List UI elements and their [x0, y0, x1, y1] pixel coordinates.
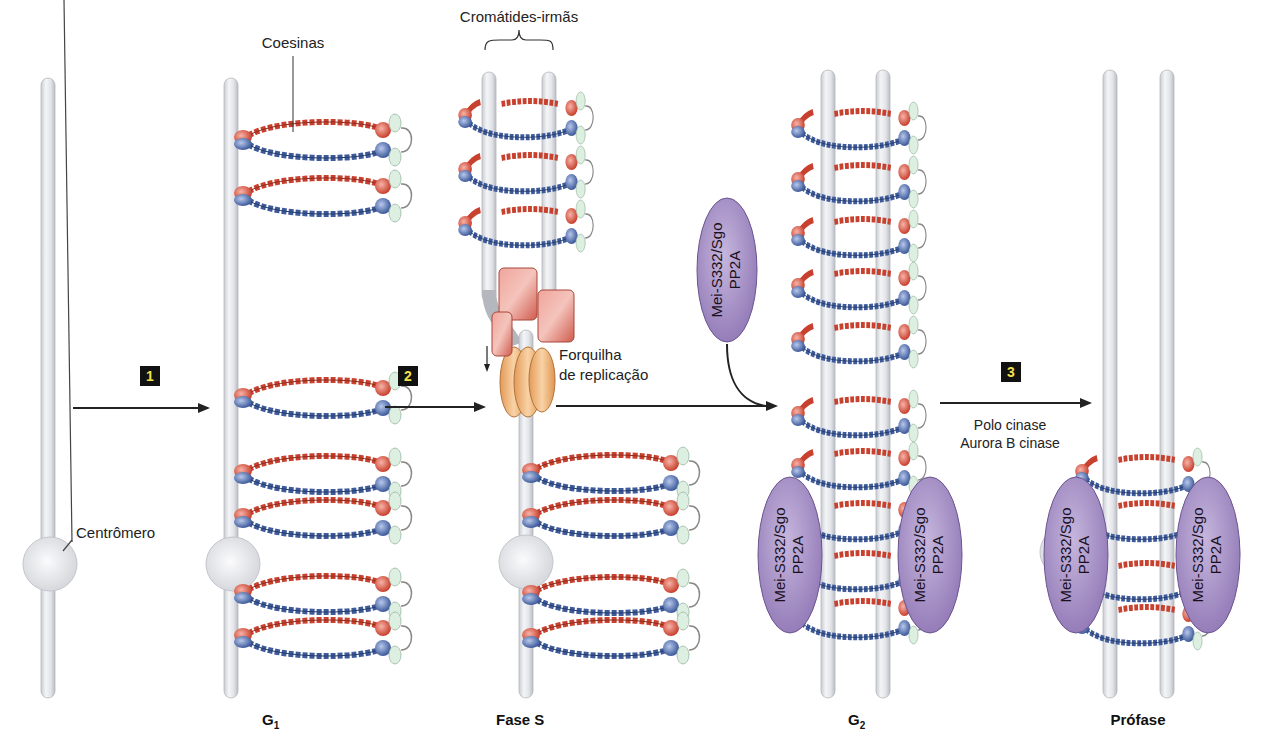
protein-label-line2: PP2A	[1075, 536, 1092, 574]
chromosome-g1: Coesinas	[206, 34, 412, 698]
cohesin-ring	[234, 372, 412, 424]
cohesin-ring	[458, 146, 593, 198]
protein-complex-right: Mei-S332/Sgo PP2A	[898, 477, 962, 633]
protein-complex-right: Mei-S332/Sgo PP2A	[1176, 477, 1240, 633]
protein-label-line2: PP2A	[789, 536, 806, 574]
protein-label-line1: Mei-S332/Sgo	[911, 507, 928, 602]
cohesin-ring	[234, 612, 412, 664]
centromere-label: Centrômero	[76, 524, 155, 541]
cohesin-ring	[791, 156, 926, 208]
cohesin-ring	[791, 390, 926, 442]
cohesin-ring	[234, 170, 412, 222]
protein-label-line1: Mei-S332/Sgo	[1057, 507, 1074, 602]
stage-label-g1: G1	[262, 711, 280, 731]
cohesin-ring	[791, 210, 926, 262]
step-1-number: 1	[146, 368, 154, 384]
cohesin-ring	[458, 200, 593, 252]
cohesin-ring	[522, 447, 700, 499]
protein-label-line1: Mei-S332/Sgo	[1189, 507, 1206, 602]
stage-label-prophase: Prófase	[1110, 711, 1165, 728]
cohesin-ring	[791, 102, 926, 154]
step-1-arrow: 1	[73, 366, 210, 413]
sister-chromatids-label: Cromátides-irmãs	[460, 8, 578, 25]
protein-complex-left: Mei-S332/Sgo PP2A	[758, 477, 822, 633]
cohesin-ring	[234, 568, 412, 620]
replication-fork-label-line1: Forquilha	[559, 346, 622, 363]
kinase-label-line2: Aurora B cinase	[960, 435, 1060, 451]
chromosome-g2: Mei-S332/Sgo PP2A Mei-S332/Sgo PP2A	[758, 70, 962, 698]
chromosome-s-phase: Forquilha de replicação Cromátides-irmãs	[458, 8, 699, 698]
chromosome-prophase: Mei-S332/Sgo PP2A Mei-S332/Sgo PP2A	[1040, 70, 1240, 698]
replication-fork-label-line2: de replicação	[559, 366, 648, 383]
protein-complex-left: Mei-S332/Sgo PP2A	[1044, 477, 1108, 633]
cohesin-ring	[791, 442, 926, 494]
step-3-arrow: 3 Polo cinase Aurora B cinase	[940, 362, 1092, 451]
protein-complex-free: Mei-S332/Sgo PP2A	[697, 198, 757, 342]
cohesin-ring	[234, 448, 412, 500]
cohesin-ring	[458, 92, 593, 144]
cohesin-cycle-diagram: Centrômero 1 Coesinas G1 2	[0, 0, 1264, 751]
cohesin-ring	[522, 612, 700, 664]
step-2-arrow: 2	[385, 366, 486, 412]
protein-label-line2: PP2A	[929, 536, 946, 574]
cohesin-ring	[234, 492, 412, 544]
cohesin-ring	[522, 492, 700, 544]
stage-label-g2: G2	[848, 711, 866, 731]
cohesin-ring	[234, 114, 412, 166]
step-2-number: 2	[404, 368, 412, 384]
protein-label-line2: PP2A	[726, 251, 743, 289]
cohesin-ring	[791, 316, 926, 368]
cohesins-label: Coesinas	[262, 34, 325, 51]
cohesin-ring	[791, 262, 926, 314]
protein-label-line1: Mei-S332/Sgo	[771, 507, 788, 602]
protein-label-line2: PP2A	[1207, 536, 1224, 574]
protein-label-line1: Mei-S332/Sgo	[708, 222, 725, 317]
chromosome-unreplicated: Centrômero	[23, 0, 155, 698]
step-3-number: 3	[1007, 364, 1015, 380]
kinase-label-line1: Polo cinase	[974, 417, 1047, 433]
stage-label-s: Fase S	[496, 711, 544, 728]
